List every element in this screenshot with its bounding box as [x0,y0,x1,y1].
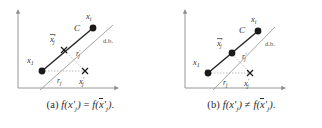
label-decision-boundary: d.b. [103,37,113,44]
label-r-prime-j: r′j [242,52,247,63]
label-decision-boundary: d.b. [265,40,275,47]
label-r-j: rj [57,76,62,86]
svg-text:x′j: x′j [216,38,223,49]
point-x-i-marker [90,25,97,32]
caption-a-fn-left: f(x′j) [61,99,83,110]
label-x-i: xi [85,11,92,22]
caption-a-tag: (a) [47,99,59,110]
caption-a-fn-right: f(x′j). [92,99,114,110]
point-x-prime-j-marker [82,68,88,74]
label-cluster-c: C [74,23,81,33]
subfigure-b: xi C d.b. x′j x1 r′j [161,0,322,128]
point-x-i-marker [255,28,262,35]
label-x-1: x1 [192,57,200,68]
point-xbar-prime-j-marker [229,50,236,57]
figure-root: xi C d.b. x′j x1 r′j [0,0,322,128]
caption-b-fn-left: f(x′j) [223,99,245,110]
point-x-1-marker [39,68,46,75]
label-cluster-c: C [239,25,246,35]
label-x-i: xi [250,14,257,25]
caption-b: (b) f(x′j) ≠ f(x′j). [161,99,322,113]
caption-a-relation: = [83,99,89,110]
plot-area-a: xi C d.b. x′j x1 r′j [0,0,161,100]
caption-b-relation: ≠ [245,99,251,110]
label-xbar-prime-j: x′j [49,34,56,45]
label-r-j: rj [223,78,228,88]
label-x-prime-j: x′j [78,76,85,87]
label-xbar-prime-j: x′j [216,38,223,49]
point-x-1-marker [205,70,212,77]
plot-area-b: xi C d.b. x′j x1 r′j [161,0,322,100]
label-x-1: x1 [26,55,34,66]
caption-b-fn-right: f(x′j). [253,99,275,110]
subfigure-a: xi C d.b. x′j x1 r′j [0,0,161,128]
caption-a: (a) f(x′j) = f(x′j). [0,99,161,113]
caption-b-tag: (b) [207,99,220,110]
svg-text:x′j: x′j [49,34,56,45]
